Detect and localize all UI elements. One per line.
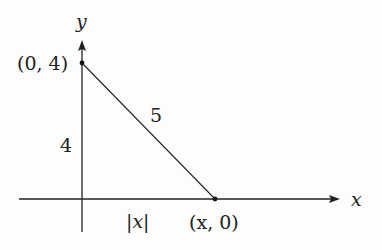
point-label-x-0: (x, 0) xyxy=(189,211,239,233)
x-axis-label: x xyxy=(351,188,362,210)
y-axis-label: y xyxy=(75,10,87,32)
diagram-svg: y x (0, 4) (x, 0) 5 4 |x| xyxy=(0,0,382,250)
point-x-0 xyxy=(213,197,218,202)
hypotenuse-length-label: 5 xyxy=(150,104,162,126)
vertical-side-label: 4 xyxy=(60,134,72,156)
right-triangle-diagram: y x (0, 4) (x, 0) 5 4 |x| xyxy=(0,0,382,250)
point-label-0-4: (0, 4) xyxy=(17,52,68,74)
point-0-4 xyxy=(80,61,85,66)
hypotenuse-segment xyxy=(82,63,215,199)
horizontal-side-label: |x| xyxy=(126,210,150,233)
